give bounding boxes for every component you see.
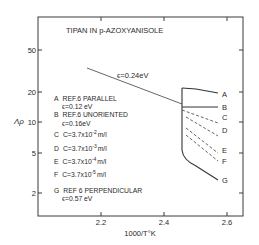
curve-f <box>186 135 218 161</box>
curve-a <box>182 88 218 93</box>
svg-text:EC=3.7x10-4m/l: EC=3.7x10-4m/l <box>54 156 107 165</box>
svg-text:2.2: 2.2 <box>96 218 106 227</box>
curve-labels: A B C D E F G <box>222 90 228 185</box>
y-axis-label: Λρ <box>13 117 24 126</box>
svg-text:CC=3.7x10-2m/l: CC=3.7x10-2m/l <box>54 129 107 138</box>
chart: TIPAN IN p-AZOXYANISOLE 50 20 10 5 2 2.2… <box>0 0 259 245</box>
svg-text:ϵ=0.57 eV: ϵ=0.57 eV <box>62 195 93 202</box>
svg-text:DC=3.7x10-3m/l: DC=3.7x10-3m/l <box>54 143 107 152</box>
svg-text:BREF.6 UNORIENTED: BREF.6 UNORIENTED <box>54 111 128 118</box>
svg-text:5: 5 <box>32 149 36 158</box>
svg-text:20: 20 <box>28 88 36 97</box>
svg-text:A: A <box>222 90 227 99</box>
svg-text:C: C <box>222 113 228 122</box>
reference-annotation: ϵ=0.24eV <box>117 71 148 80</box>
svg-text:2: 2 <box>32 189 36 198</box>
svg-text:AREF.6 PARALLEL: AREF.6 PARALLEL <box>54 95 117 102</box>
curve-e <box>186 128 218 153</box>
svg-text:2.4: 2.4 <box>159 218 169 227</box>
svg-text:D: D <box>222 126 228 135</box>
chart-title: TIPAN IN p-AZOXYANISOLE <box>66 26 163 35</box>
curve-d <box>186 117 218 136</box>
svg-text:G: G <box>222 176 228 185</box>
svg-text:10: 10 <box>28 118 36 127</box>
svg-text:50: 50 <box>28 46 36 55</box>
x-axis-label: 1000/T°K <box>124 229 155 238</box>
svg-text:B: B <box>222 103 227 112</box>
svg-text:ϵ=0.16eV: ϵ=0.16eV <box>62 120 91 127</box>
svg-text:ϵ=0.12 eV: ϵ=0.12 eV <box>62 103 93 110</box>
curve-c <box>182 110 218 123</box>
legend: AREF.6 PARALLEL ϵ=0.12 eV BREF.6 UNORIEN… <box>54 95 142 202</box>
svg-text:FC=3.7x10-5m/l: FC=3.7x10-5m/l <box>54 169 106 178</box>
svg-text:F: F <box>222 157 227 166</box>
svg-text:E: E <box>222 146 227 155</box>
svg-text:2.6: 2.6 <box>222 218 232 227</box>
dashed-curves <box>182 110 218 161</box>
x-tick-labels: 2.2 2.4 2.6 <box>96 218 232 227</box>
svg-text:GREF 6 PERPENDICULAR: GREF 6 PERPENDICULAR <box>54 187 142 194</box>
curves <box>182 88 218 180</box>
curve-g <box>182 88 218 180</box>
y-tick-labels: 50 20 10 5 2 <box>28 46 36 198</box>
